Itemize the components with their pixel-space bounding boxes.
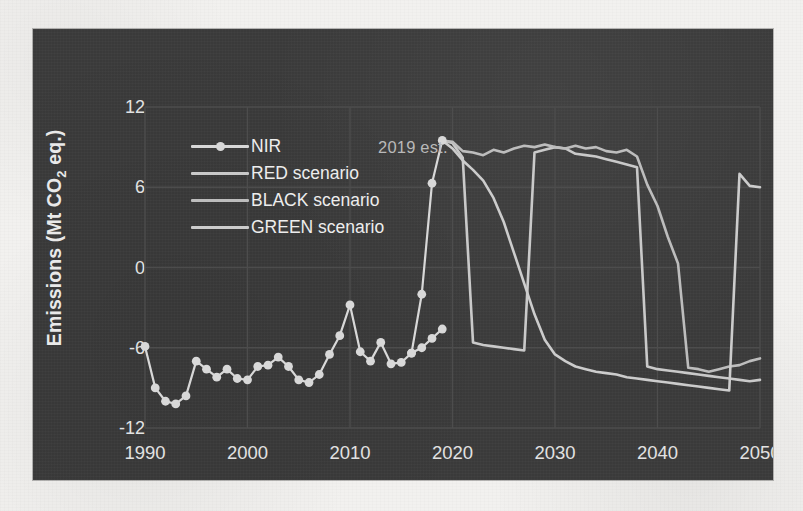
data-point-marker — [305, 378, 314, 387]
legend-item-label: GREEN scenario — [251, 217, 384, 238]
legend-item-label: NIR — [251, 136, 281, 157]
data-point-marker — [428, 334, 437, 343]
plot-area — [33, 29, 773, 480]
chart-legend: NIRRED scenarioBLACK scenarioGREEN scena… — [191, 133, 406, 241]
legend-swatch-icon — [191, 140, 249, 154]
annotation-2019-est: 2019 est. — [378, 138, 448, 157]
legend-item-label: BLACK scenario — [251, 190, 379, 211]
data-point-marker — [151, 383, 160, 392]
data-point-marker — [335, 331, 344, 340]
data-point-marker — [243, 375, 252, 384]
legend-swatch-icon — [191, 221, 249, 235]
legend-item[interactable]: NIR — [191, 133, 406, 160]
data-point-marker — [223, 365, 232, 374]
data-point-marker — [182, 392, 191, 401]
data-point-marker — [387, 359, 396, 368]
data-point-marker — [346, 301, 355, 310]
data-point-marker — [233, 374, 242, 383]
legend-line-icon — [191, 226, 249, 229]
data-point-marker — [356, 347, 365, 356]
data-point-marker — [397, 358, 406, 367]
data-point-marker — [264, 361, 273, 370]
data-point-marker — [253, 362, 262, 371]
data-point-marker — [417, 343, 426, 352]
legend-line-icon — [191, 199, 249, 202]
data-point-marker — [161, 397, 170, 406]
legend-item[interactable]: GREEN scenario — [191, 214, 406, 241]
legend-marker-icon — [216, 142, 225, 151]
data-point-marker — [212, 373, 221, 382]
data-point-marker — [366, 357, 375, 366]
chart-figure: Emissions (Mt CO2 eq.) 1260-6-12 1990200… — [33, 29, 773, 480]
data-point-marker — [192, 357, 201, 366]
series-line — [145, 305, 442, 404]
data-point-marker — [171, 400, 180, 409]
data-point-marker — [417, 290, 426, 299]
data-point-marker — [428, 179, 437, 188]
legend-line-icon — [191, 172, 249, 175]
series-line — [442, 140, 760, 381]
legend-item-label: RED scenario — [251, 163, 359, 184]
legend-swatch-icon — [191, 194, 249, 208]
data-point-marker — [376, 338, 385, 347]
data-point-marker — [141, 342, 150, 351]
data-point-marker — [438, 325, 447, 334]
data-point-marker — [274, 353, 283, 362]
data-point-marker — [325, 350, 334, 359]
series-line — [442, 140, 760, 390]
data-point-marker — [284, 362, 293, 371]
legend-item[interactable]: RED scenario — [191, 160, 406, 187]
data-point-marker — [315, 370, 324, 379]
data-point-marker — [202, 365, 211, 374]
legend-swatch-icon — [191, 167, 249, 181]
data-point-marker — [294, 375, 303, 384]
series-line — [442, 140, 760, 371]
series-line — [412, 140, 443, 353]
data-point-marker — [407, 349, 416, 358]
legend-item[interactable]: BLACK scenario — [191, 187, 406, 214]
